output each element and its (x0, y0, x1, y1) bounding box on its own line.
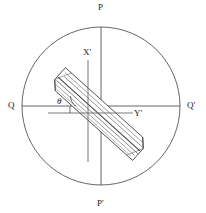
orientation-diagram-svg (0, 0, 206, 213)
label-x-prime-axis: X' (83, 48, 91, 57)
label-p-prime-bottom: P' (97, 199, 104, 208)
label-q-prime-right: Q' (187, 101, 195, 110)
label-theta-angle: θ (57, 97, 61, 106)
label-q-left: Q (8, 101, 15, 110)
label-y-prime-axis: Y' (134, 109, 142, 118)
label-p-top: P (98, 3, 103, 12)
figure-container: P P' Q Q' X' Y' θ (0, 0, 206, 213)
